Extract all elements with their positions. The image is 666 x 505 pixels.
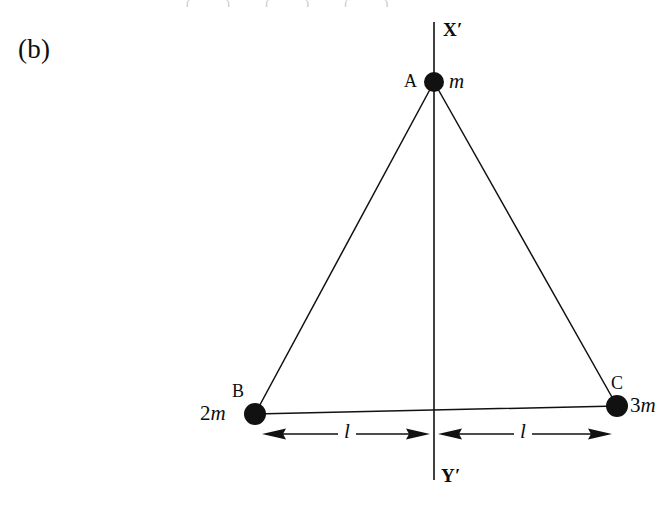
- edge-a-to-b: [255, 82, 434, 414]
- vertex-label-c: C: [611, 374, 623, 392]
- mass-point-c: [606, 395, 628, 417]
- dimension-left-span-right-arrowhead: [406, 429, 430, 440]
- mass-prefix-b: 2: [200, 401, 211, 425]
- mass-label-b: 2m: [200, 403, 226, 424]
- panel-label: (b): [18, 36, 50, 63]
- mass-label-a: m: [449, 71, 464, 92]
- mass-prefix-c: 3: [630, 393, 641, 417]
- mass-point-b: [244, 403, 266, 425]
- edge-a-to-c: [434, 82, 617, 406]
- mass-symbol-c: m: [641, 393, 656, 417]
- dimension-left-arrowhead: [262, 429, 286, 440]
- dimension-right-span-right-arrowhead: [588, 429, 612, 440]
- dimension-right-span-left-arrowhead: [438, 429, 462, 440]
- diagram-svg: [0, 0, 666, 505]
- axis-label-y-prime: Y′: [441, 466, 460, 485]
- triangle-edges: [255, 82, 617, 414]
- vertex-label-b: B: [232, 382, 244, 400]
- mass-points: [244, 72, 628, 425]
- length-label-left: l: [344, 421, 350, 442]
- axis-label-x-prime: X′: [443, 20, 462, 39]
- mass-symbol-b: m: [211, 401, 226, 425]
- mass-symbol-a: m: [449, 69, 464, 93]
- mass-label-c: 3m: [630, 395, 656, 416]
- vertex-label-a: A: [404, 72, 417, 90]
- figure-canvas: ( ) ( ) ( ): [0, 0, 666, 505]
- length-label-right: l: [520, 421, 526, 442]
- edge-b-to-c: [255, 406, 617, 414]
- mass-point-a: [424, 72, 444, 92]
- dimension-arrows: [262, 429, 612, 440]
